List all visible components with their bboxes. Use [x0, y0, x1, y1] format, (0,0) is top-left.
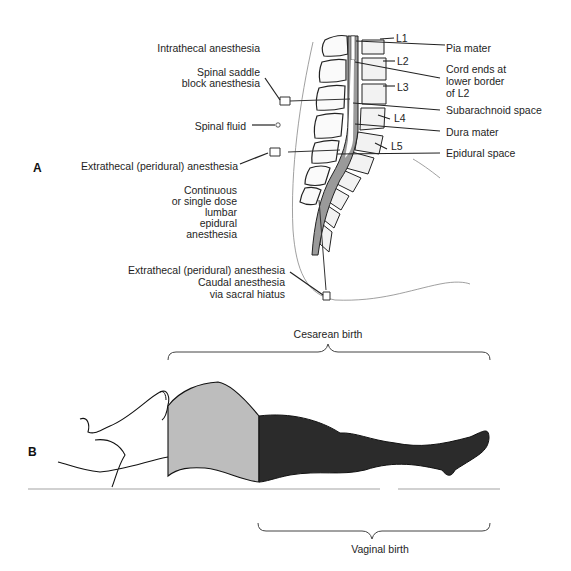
panel-b-letter: B: [28, 445, 37, 459]
label-extrathecal: Extrathecal (peridural) anesthesia: [81, 160, 238, 172]
label-cord-1: Cord ends at: [446, 63, 506, 75]
vertebra-l3: L3: [397, 81, 409, 93]
label-intrathecal: Intrathecal anesthesia: [157, 42, 260, 54]
label-caudal-1: Extrathecal (peridural) anesthesia: [128, 264, 285, 276]
label-subarachnoid: Subarachnoid space: [446, 104, 542, 116]
label-caudal-3: via sacral hiatus: [210, 288, 285, 300]
label-caudal-2: Caudal anesthesia: [198, 276, 285, 288]
vertebra-l4: L4: [394, 112, 406, 124]
head-outline: [58, 391, 169, 487]
panel-a-letter: A: [33, 161, 42, 175]
vertebra-l2: L2: [397, 55, 409, 67]
vertebra-l1: L1: [396, 32, 408, 44]
spinal-fluid-drop-icon: [276, 123, 280, 127]
label-cord-2: lower border: [446, 75, 504, 87]
label-epidural-space: Epidural space: [446, 147, 515, 159]
label-spinal-fluid: Spinal fluid: [195, 120, 246, 132]
vaginal-brace: [258, 523, 490, 539]
label-cesarean-birth: Cesarean birth: [278, 328, 378, 340]
label-vaginal-birth: Vaginal birth: [330, 543, 430, 555]
spinal-cord: [351, 36, 355, 60]
label-dura-mater: Dura mater: [446, 126, 499, 138]
label-continuous-5: anesthesia: [186, 228, 237, 240]
vertebra-l5: L5: [391, 140, 403, 152]
leader-lines-left: [240, 78, 323, 295]
trunk-region: [168, 382, 259, 482]
legs-region: [259, 415, 489, 482]
patient-body: [58, 382, 489, 487]
belly-outline: [160, 392, 166, 400]
label-saddle-2: block anesthesia: [182, 77, 260, 89]
label-cord-3: of L2: [446, 87, 469, 99]
label-pia-mater: Pia mater: [446, 42, 491, 54]
cesarean-brace: [168, 344, 490, 360]
